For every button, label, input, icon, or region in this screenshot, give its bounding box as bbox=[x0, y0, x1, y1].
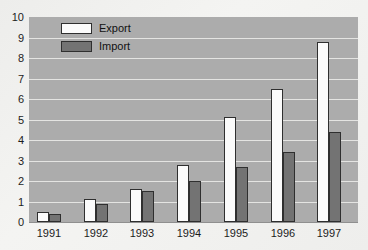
bar-export-1996 bbox=[271, 89, 283, 222]
y-tick-label: 0 bbox=[1, 216, 24, 228]
gridline bbox=[29, 161, 358, 162]
bar-import-1991 bbox=[49, 214, 61, 222]
x-tick-label: 1993 bbox=[120, 227, 164, 239]
bar-export-1993 bbox=[130, 189, 142, 222]
y-tick-label: 4 bbox=[1, 134, 24, 146]
y-tick-label: 8 bbox=[1, 52, 24, 64]
bar-import-1996 bbox=[283, 152, 295, 222]
y-tick-label: 7 bbox=[1, 73, 24, 85]
x-tick-label: 1994 bbox=[167, 227, 211, 239]
x-tick-label: 1992 bbox=[74, 227, 118, 239]
bar-export-1994 bbox=[177, 165, 189, 222]
bar-export-1991 bbox=[37, 212, 49, 222]
bar-import-1995 bbox=[236, 167, 248, 222]
x-tick-label: 1991 bbox=[27, 227, 71, 239]
gridline bbox=[29, 99, 358, 100]
legend-swatch-export bbox=[61, 23, 92, 34]
y-tick-label: 2 bbox=[1, 175, 24, 187]
bar-import-1994 bbox=[189, 181, 201, 222]
y-tick-label: 10 bbox=[1, 11, 24, 23]
legend: Export Import bbox=[61, 19, 131, 55]
gridline bbox=[29, 120, 358, 121]
x-tick-label: 1995 bbox=[214, 227, 258, 239]
legend-label-export: Export bbox=[99, 22, 131, 34]
bar-import-1993 bbox=[142, 191, 154, 222]
legend-item-import: Import bbox=[61, 37, 131, 55]
y-tick-label: 9 bbox=[1, 32, 24, 44]
legend-swatch-import bbox=[61, 41, 92, 52]
x-tick-label: 1996 bbox=[261, 227, 305, 239]
legend-item-export: Export bbox=[61, 19, 131, 37]
plot-area: Export Import bbox=[29, 17, 358, 223]
x-tick-label: 1997 bbox=[307, 227, 351, 239]
bar-export-1992 bbox=[84, 199, 96, 222]
gridline bbox=[29, 140, 358, 141]
gridline bbox=[29, 79, 358, 80]
y-tick-label: 3 bbox=[1, 155, 24, 167]
chart: Export Import 012345678910 1991199219931… bbox=[0, 0, 368, 250]
y-tick-label: 1 bbox=[1, 196, 24, 208]
bar-import-1992 bbox=[96, 204, 108, 222]
bar-export-1995 bbox=[224, 117, 236, 222]
y-tick-label: 6 bbox=[1, 93, 24, 105]
gridline bbox=[29, 58, 358, 59]
bar-export-1997 bbox=[317, 42, 329, 222]
y-tick-label: 5 bbox=[1, 114, 24, 126]
bar-import-1997 bbox=[329, 132, 341, 222]
legend-label-import: Import bbox=[99, 40, 130, 52]
